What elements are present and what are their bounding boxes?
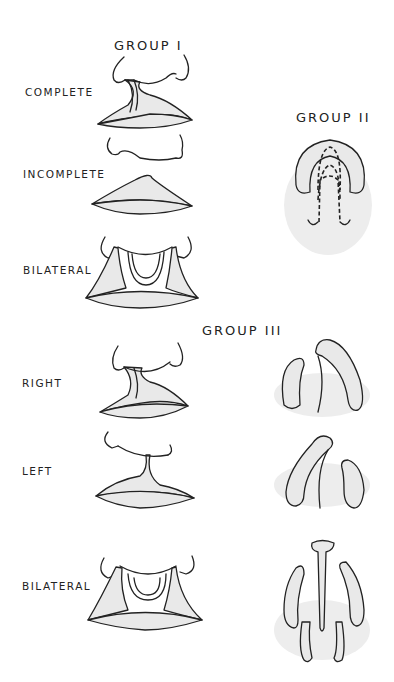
palate-left-illustration bbox=[274, 436, 370, 508]
lip-bilateral-illustration-3 bbox=[88, 556, 202, 630]
lip-right-illustration bbox=[100, 343, 188, 418]
lip-bilateral-illustration-1 bbox=[86, 237, 198, 308]
cleft-classification-diagram bbox=[0, 0, 394, 682]
lip-complete-unilateral-illustration bbox=[98, 55, 192, 128]
palate-right-illustration bbox=[274, 340, 370, 417]
palate-group-2-illustration bbox=[284, 140, 372, 255]
lip-incomplete-illustration bbox=[92, 135, 192, 214]
lip-left-illustration bbox=[96, 432, 194, 508]
palate-bilateral-illustration bbox=[274, 541, 370, 662]
